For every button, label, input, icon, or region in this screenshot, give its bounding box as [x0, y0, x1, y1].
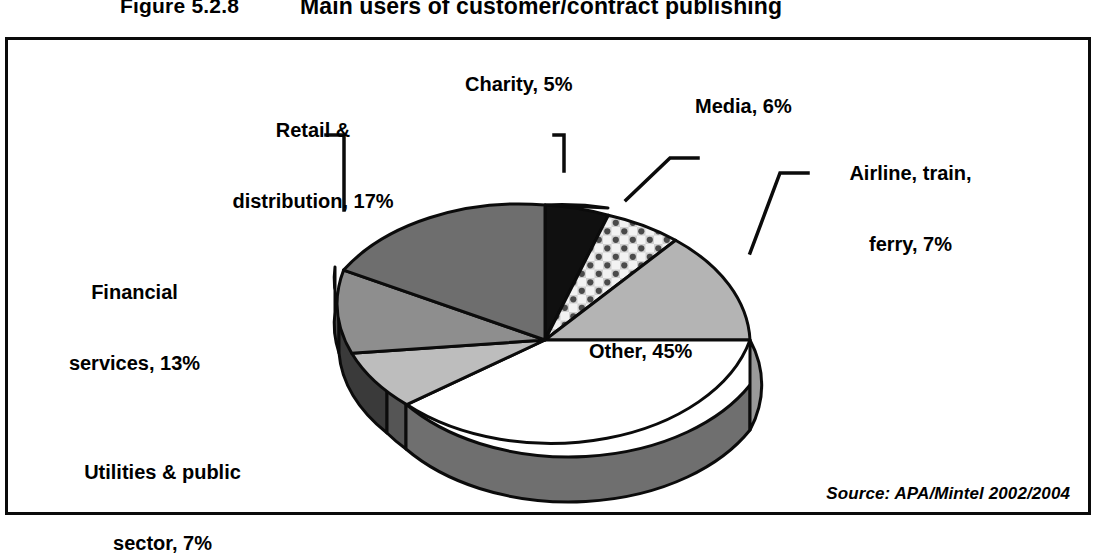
- leader-line-airline: [750, 173, 808, 253]
- figure-number: Figure 5.2.8: [120, 0, 239, 18]
- page-title: Figure 5.2.8 Main users of customer/cont…: [0, 0, 1099, 24]
- figure-title-text: Main users of customer/contract publishi…: [300, 0, 782, 20]
- label-media: Media, 6%: [695, 95, 792, 119]
- label-charity: Charity, 5%: [465, 73, 572, 97]
- label-retail-line2: distribution, 17%: [188, 190, 438, 214]
- leader-line-charity: [554, 135, 564, 171]
- chart-frame: Retail & distribution, 17% Charity, 5% M…: [5, 37, 1091, 515]
- label-financial-line1: Financial: [22, 281, 247, 305]
- label-airline-line2: ferry, 7%: [803, 233, 1018, 257]
- label-financial-line2: services, 13%: [22, 352, 247, 376]
- source-note: Source: APA/Mintel 2002/2004: [826, 484, 1070, 504]
- label-financial: Financial services, 13%: [22, 234, 247, 423]
- label-retail: Retail & distribution, 17%: [188, 72, 438, 261]
- leader-line-media: [626, 158, 698, 200]
- label-airline-line1: Airline, train,: [803, 162, 1018, 186]
- label-utilities-line2: sector, 7%: [30, 532, 295, 556]
- label-retail-line1: Retail &: [188, 119, 438, 143]
- label-other: Other, 45%: [589, 340, 692, 364]
- label-utilities: Utilities & public sector, 7%: [30, 414, 295, 557]
- label-utilities-line1: Utilities & public: [30, 461, 295, 485]
- label-airline: Airline, train, ferry, 7%: [803, 115, 1018, 304]
